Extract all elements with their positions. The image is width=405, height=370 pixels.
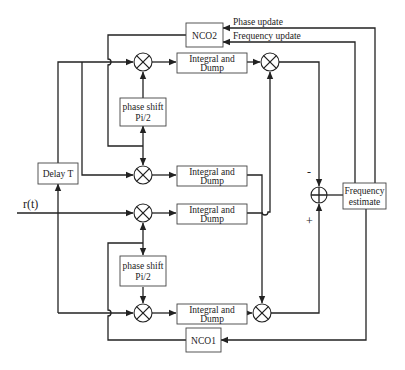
nco1-label: NCO1 bbox=[191, 336, 216, 346]
delay-block: Delay T bbox=[38, 163, 78, 184]
delay-label: Delay T bbox=[43, 169, 74, 179]
input-signal-label: r(t) bbox=[23, 197, 38, 211]
plus-sign: + bbox=[306, 214, 313, 228]
phase-shift-label: phase shift bbox=[123, 261, 164, 271]
id-label-2: Dump bbox=[200, 314, 224, 324]
multiplier-right-bottom bbox=[253, 304, 271, 322]
nco2-block: NCO2 bbox=[186, 23, 223, 47]
wire-id2-to-multRt bbox=[247, 72, 270, 215]
phase-update-label: Phase update bbox=[233, 17, 283, 27]
wire-multRt-to-summer bbox=[279, 62, 319, 186]
integrate-dump-1-block: Integral and Dump bbox=[177, 53, 247, 73]
integrate-dump-3-block: Integral and Dump bbox=[177, 204, 247, 224]
wire-nco2-out bbox=[108, 35, 186, 146]
integrate-dump-4-block: Integral and Dump bbox=[177, 304, 247, 324]
frequency-update-label: Frequency update bbox=[233, 31, 301, 41]
minus-sign: - bbox=[307, 165, 311, 179]
multiplier-3 bbox=[134, 204, 152, 222]
phase-shift-value: Pi/2 bbox=[135, 272, 151, 282]
phase-shift-value: Pi/2 bbox=[135, 113, 151, 123]
multiplier-1 bbox=[134, 53, 152, 71]
freq-est-label-1: Frequency bbox=[344, 186, 384, 196]
nco1-block: NCO1 bbox=[186, 328, 221, 352]
multiplier-4 bbox=[134, 304, 152, 322]
block-diagram: - + NCO2 NCO1 Delay T phase shift Pi/2 p… bbox=[0, 0, 405, 370]
wire-phase-update bbox=[223, 28, 375, 183]
phase-shift-top-block: phase shift Pi/2 bbox=[120, 98, 166, 126]
nco2-label: NCO2 bbox=[192, 31, 217, 41]
id-label-2: Dump bbox=[200, 214, 224, 224]
wire-id3-to-multRb bbox=[247, 213, 262, 303]
frequency-estimate-block: Frequency estimate bbox=[343, 183, 386, 209]
id-label-2: Dump bbox=[200, 176, 224, 186]
integrate-dump-2-block: Integral and Dump bbox=[177, 166, 247, 186]
multiplier-right-top bbox=[261, 53, 279, 71]
phase-shift-label: phase shift bbox=[123, 102, 164, 112]
summing-junction: - + bbox=[306, 165, 327, 228]
freq-est-label-2: estimate bbox=[349, 197, 381, 207]
multiplier-2 bbox=[134, 166, 152, 184]
phase-shift-bottom-block: phase shift Pi/2 bbox=[120, 256, 166, 286]
id-label-2: Dump bbox=[200, 63, 224, 73]
